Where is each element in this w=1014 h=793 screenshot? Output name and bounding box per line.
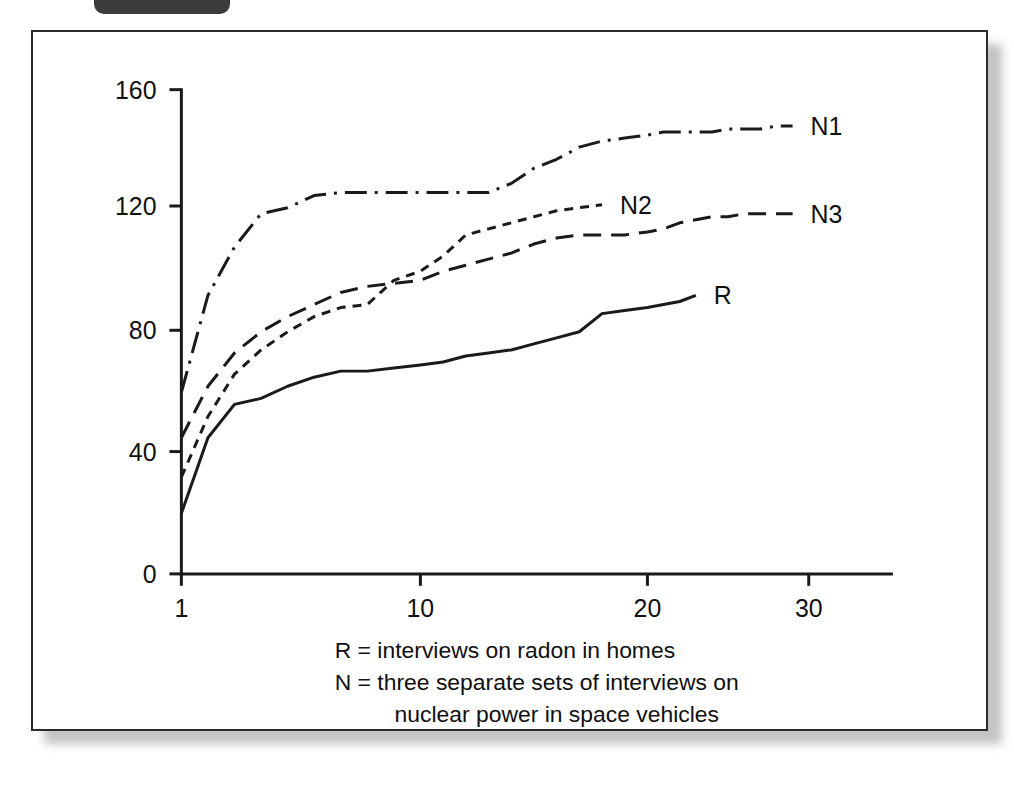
- series-label-n1: N1: [811, 112, 843, 140]
- caption-line-1: R = interviews on radon in homes: [335, 637, 675, 663]
- x-tick-label-1: 1: [174, 594, 188, 622]
- y-axis-ticks: [169, 90, 181, 574]
- series-label-n2: N2: [620, 191, 652, 219]
- series-layer: [181, 126, 792, 513]
- top-tab-decoration: [94, 0, 230, 14]
- y-tick-label-0: 0: [143, 560, 157, 588]
- caption-line-2: N = three separate sets of interviews on: [335, 669, 739, 695]
- chart-caption: R = interviews on radon in homes N = thr…: [335, 637, 739, 727]
- y-axis-tick-labels: 160 120 80 40 0: [115, 76, 157, 588]
- x-axis-tick-labels: 1 10 20 30: [174, 594, 822, 622]
- y-tick-label-80: 80: [129, 316, 157, 344]
- series-line-r: [181, 295, 695, 513]
- caption-line-3: nuclear power in space vehicles: [394, 701, 718, 727]
- y-tick-label-40: 40: [129, 438, 157, 466]
- x-tick-label-20: 20: [634, 594, 662, 622]
- x-tick-label-30: 30: [795, 594, 823, 622]
- figure-frame: 160 120 80 40 0 1 10 20 30: [31, 30, 988, 731]
- x-tick-label-10: 10: [407, 594, 435, 622]
- series-label-n3: N3: [811, 200, 843, 228]
- y-tick-label-120: 120: [115, 192, 157, 220]
- page-root: 160 120 80 40 0 1 10 20 30: [0, 0, 1014, 793]
- series-line-n3: [181, 214, 792, 438]
- series-label-layer: N1N2N3R: [620, 112, 842, 309]
- axes: [181, 90, 891, 574]
- y-tick-label-160: 160: [115, 76, 157, 104]
- line-chart: 160 120 80 40 0 1 10 20 30: [33, 32, 986, 729]
- series-line-n2: [181, 205, 602, 477]
- x-axis-ticks: [181, 574, 808, 586]
- series-label-r: R: [714, 281, 732, 309]
